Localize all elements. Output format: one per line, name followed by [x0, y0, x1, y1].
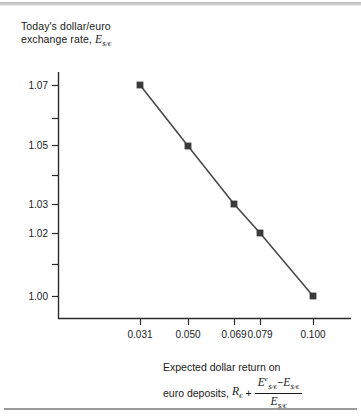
- fraction-num-term-a: Ee$/€: [258, 376, 277, 388]
- data-series-line: [140, 85, 313, 296]
- data-point-marker: [185, 143, 192, 150]
- x-axis-caption-line2-row: euro deposits, R€ + Ee$/€−E$/€ E$/€: [163, 376, 302, 411]
- x-axis-caption-line1: Expected dollar return on: [163, 360, 302, 374]
- data-point-marker: [231, 201, 238, 208]
- x-tick-label-4: 0.079: [237, 329, 283, 340]
- fraction-numerator: Ee$/€−E$/€: [255, 376, 303, 394]
- data-point-marker: [137, 82, 144, 89]
- data-point-marker: [257, 230, 264, 237]
- y-axis-ticks: [52, 86, 58, 297]
- x-axis-caption-line2: euro deposits,: [163, 386, 229, 400]
- x-tick-label-1: 0.031: [117, 329, 163, 340]
- y-tick-label-2: 1.05: [4, 140, 48, 151]
- y-tick-label-3: 1.03: [4, 199, 48, 210]
- expected-depreciation-fraction: Ee$/€−E$/€ E$/€: [255, 376, 303, 411]
- x-tick-label-5: 0.100: [290, 329, 336, 340]
- fraction-num-term-b: E$/€: [283, 376, 299, 388]
- data-point-marker: [310, 293, 317, 300]
- y-tick-label-4: 1.02: [4, 228, 48, 239]
- x-tick-label-2: 0.050: [165, 329, 211, 340]
- y-tick-label-1: 1.07: [4, 80, 48, 91]
- fraction-den-term: E$/€: [270, 395, 286, 407]
- x-axis-caption: Expected dollar return on euro deposits,…: [163, 360, 302, 411]
- x-axis-operator: +: [246, 386, 252, 400]
- x-axis-symbol-subscript: €: [239, 392, 243, 400]
- fraction-denominator: E$/€: [267, 394, 289, 411]
- y-tick-label-5: 1.00: [4, 291, 48, 302]
- chart-plot-area: [0, 0, 361, 420]
- x-axis-symbol: R€: [232, 384, 243, 403]
